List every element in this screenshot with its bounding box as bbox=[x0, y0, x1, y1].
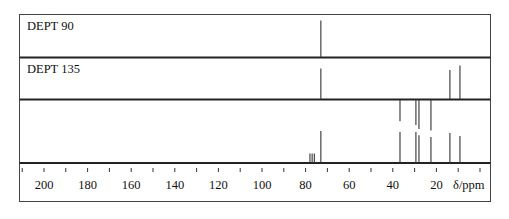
x-tick-label: 60 bbox=[343, 178, 356, 192]
chart-frame bbox=[20, 15, 491, 202]
dept135-peaks bbox=[321, 65, 460, 130]
panel-label-dept135: DEPT 135 bbox=[27, 62, 80, 76]
nmr-spectrum-chart: DEPT 90 DEPT 135 20018016014012010080604… bbox=[0, 0, 509, 219]
x-axis-unit-label: δ/ppm bbox=[453, 178, 485, 192]
panel-label-dept90: DEPT 90 bbox=[27, 19, 74, 33]
x-axis: 20018016014012010080604020 bbox=[22, 168, 480, 192]
x-tick-label: 100 bbox=[253, 178, 272, 192]
x-tick-label: 200 bbox=[35, 178, 54, 192]
x-tick-label: 140 bbox=[165, 178, 184, 192]
x-tick-label: 80 bbox=[299, 178, 312, 192]
x-tick-label: 120 bbox=[209, 178, 228, 192]
x-tick-label: 160 bbox=[122, 178, 141, 192]
x-tick-label: 20 bbox=[430, 178, 443, 192]
x-tick-label: 40 bbox=[387, 178, 400, 192]
x-tick-label: 180 bbox=[78, 178, 97, 192]
c13-peaks bbox=[310, 131, 460, 163]
